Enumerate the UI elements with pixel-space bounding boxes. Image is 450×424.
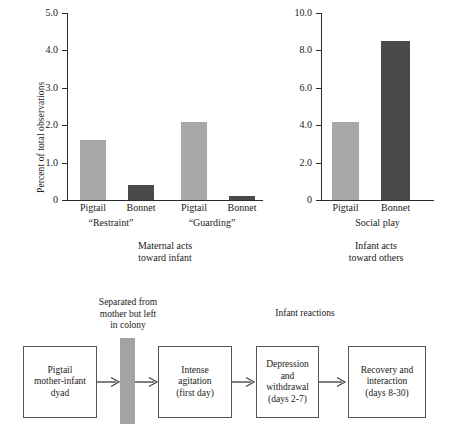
- y-tick-5: [316, 13, 321, 14]
- separator-caption-line1: Separated from: [77, 297, 179, 309]
- arrow-dyad-to-separation: [97, 377, 121, 387]
- y-tick-2: [316, 125, 321, 126]
- bar-socialplay-pigtail: [332, 122, 359, 201]
- y-axis-title: Percent of total observations: [36, 82, 46, 193]
- maternal-acts-caption-line2: toward infant: [67, 252, 263, 264]
- x-axis-line: [67, 200, 263, 201]
- y-tick-label-1: 1.0: [14, 157, 58, 168]
- flow-box-depression-line4: (days 2-7): [266, 394, 309, 406]
- y-tick-1: [316, 163, 321, 164]
- bar-charts-panel: Percent of total observations 0 1.0 2.0 …: [0, 0, 450, 278]
- cat-label-restraint-pigtail: Pigtail: [68, 202, 118, 213]
- x-axis-line: [321, 200, 434, 201]
- y-tick-label-4: 4.0: [14, 44, 58, 55]
- separation-bar: [120, 338, 135, 424]
- y-tick-label-0: 0: [14, 194, 58, 205]
- y-axis-line: [67, 13, 68, 200]
- flow-box-dyad-line1: Pigtail: [34, 365, 86, 377]
- flow-box-agitation-line3: (first day): [176, 388, 214, 400]
- flow-box-agitation-line1: Intense: [176, 365, 214, 377]
- flow-box-recovery-line1: Recovery and: [361, 365, 414, 377]
- figure-page: Percent of total observations 0 1.0 2.0 …: [0, 0, 450, 424]
- flow-box-recovery-line3: (days 8-30): [361, 388, 414, 400]
- flow-box-dyad-line2: mother-infant: [34, 376, 86, 388]
- y-tick-label-0: 0: [268, 194, 312, 205]
- flow-box-agitation[interactable]: Intense agitation (first day): [158, 346, 232, 418]
- y-tick-5: [62, 13, 67, 14]
- cat-label-socialplay-pigtail: Pigtail: [320, 202, 371, 213]
- flow-box-agitation-line2: agitation: [176, 376, 214, 388]
- infant-reactions-note: Infant reactions: [240, 308, 370, 318]
- y-tick-0: [62, 200, 67, 201]
- cat-label-socialplay-bonnet: Bonnet: [370, 202, 421, 213]
- y-tick-2: [62, 125, 67, 126]
- bar-socialplay-bonnet: [381, 41, 410, 200]
- maternal-acts-caption-line1: Maternal acts: [67, 240, 263, 252]
- y-tick-label-2: 2.0: [14, 119, 58, 130]
- y-tick-label-1: 2.0: [268, 157, 312, 168]
- y-tick-label-5: 5.0: [14, 7, 58, 18]
- group-label-restraint: “Restraint”: [67, 217, 155, 228]
- y-tick-4: [316, 50, 321, 51]
- flow-box-depression[interactable]: Depression and withdrawal (days 2-7): [256, 346, 319, 418]
- arrow-depression-to-recovery: [319, 377, 347, 387]
- y-tick-label-3: 6.0: [268, 82, 312, 93]
- y-tick-label-2: 4.0: [268, 119, 312, 130]
- y-tick-3: [62, 88, 67, 89]
- flow-box-recovery[interactable]: Recovery and interaction (days 8-30): [348, 346, 426, 418]
- cat-label-guarding-pigtail: Pigtail: [169, 202, 219, 213]
- y-tick-3: [316, 88, 321, 89]
- infant-acts-chart: 0 2.0 4.0 6.0 8.0 10.0 Pigtail Bonnet So…: [280, 0, 450, 278]
- cat-label-guarding-bonnet: Bonnet: [217, 202, 267, 213]
- y-tick-4: [62, 50, 67, 51]
- infant-acts-caption-line2: toward others: [316, 252, 436, 264]
- y-tick-label-3: 3.0: [14, 82, 58, 93]
- bar-guarding-bonnet: [229, 196, 255, 200]
- flow-box-recovery-line2: interaction: [361, 376, 414, 388]
- group-label-guarding: “Guarding”: [168, 217, 256, 228]
- cat-label-restraint-bonnet: Bonnet: [116, 202, 166, 213]
- arrow-separation-to-agitation: [135, 377, 159, 387]
- group-label-social-play: Social play: [321, 217, 434, 228]
- y-tick-label-5: 10.0: [268, 7, 312, 18]
- flow-box-depression-line2: and: [266, 371, 309, 383]
- bar-restraint-pigtail: [80, 140, 106, 200]
- y-tick-0: [316, 200, 321, 201]
- flow-box-depression-line3: withdrawal: [266, 382, 309, 394]
- arrow-agitation-to-depression: [232, 377, 256, 387]
- separator-caption-line2: mother but left: [77, 309, 179, 321]
- flow-box-depression-line1: Depression: [266, 359, 309, 371]
- y-tick-label-4: 8.0: [268, 44, 312, 55]
- bar-guarding-pigtail: [181, 122, 207, 201]
- bar-restraint-bonnet: [128, 185, 154, 200]
- y-axis-line: [321, 13, 322, 200]
- y-tick-1: [62, 163, 67, 164]
- flow-box-dyad[interactable]: Pigtail mother-infant dyad: [23, 346, 97, 418]
- separator-caption-line3: in colony: [77, 320, 179, 332]
- separation-flow-diagram: Separated from mother but left in colony…: [0, 278, 450, 424]
- infant-acts-caption-line1: Infant acts: [316, 240, 436, 252]
- flow-box-dyad-line3: dyad: [34, 388, 86, 400]
- maternal-acts-chart: Percent of total observations 0 1.0 2.0 …: [0, 0, 270, 278]
